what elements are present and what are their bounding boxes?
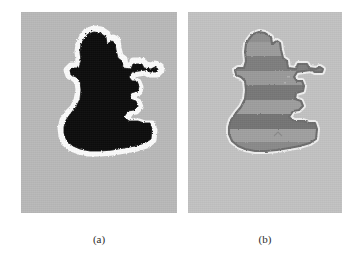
figure-root: (a) (b) bbox=[0, 0, 355, 267]
panel-a-binary-mask bbox=[21, 12, 177, 213]
caption-panel-a: (a) bbox=[69, 232, 129, 246]
panel-a-image bbox=[21, 12, 177, 213]
caption-panel-b: (b) bbox=[235, 232, 295, 246]
panel-b-image bbox=[188, 12, 342, 213]
panel-b-banded-grayscale bbox=[188, 12, 342, 213]
